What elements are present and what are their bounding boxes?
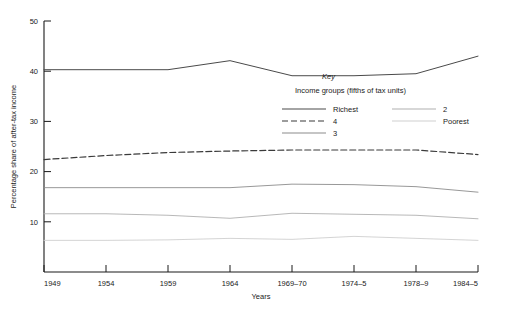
x-tick-label: 1964 bbox=[222, 279, 239, 288]
legend-label-3: 3 bbox=[333, 129, 337, 138]
legend-subtitle: Income groups (fifths of tax units) bbox=[295, 86, 406, 95]
series-line-poorest bbox=[44, 236, 478, 240]
y-tick-label: 10 bbox=[30, 218, 38, 227]
series-line-4 bbox=[44, 150, 478, 160]
series-line-3 bbox=[44, 184, 478, 192]
chart-canvas: 102030405019491954195919641969–701974–51… bbox=[0, 0, 528, 310]
legend-label-4: 4 bbox=[333, 117, 337, 126]
y-tick-label: 50 bbox=[30, 17, 38, 26]
series-lines bbox=[44, 56, 478, 240]
y-tick-label: 30 bbox=[30, 117, 38, 126]
x-tick-label: 1954 bbox=[98, 279, 115, 288]
chart-legend: KeyIncome groups (fifths of tax units)Ri… bbox=[282, 72, 470, 138]
legend-label-2: 2 bbox=[443, 105, 447, 114]
x-tick-label: 1969–70 bbox=[277, 279, 306, 288]
legend-title: Key bbox=[322, 72, 336, 81]
y-tick-label: 20 bbox=[30, 167, 38, 176]
legend-label-poorest: Poorest bbox=[443, 117, 470, 126]
x-tick-label: 1959 bbox=[160, 279, 177, 288]
x-tick-label: 1984–5 bbox=[453, 279, 478, 288]
series-line-richest bbox=[44, 56, 478, 76]
series-line-2 bbox=[44, 213, 478, 219]
x-axis-title: Years bbox=[252, 292, 271, 301]
x-tick-label: 1949 bbox=[44, 279, 61, 288]
line-chart: 102030405019491954195919641969–701974–51… bbox=[0, 0, 528, 310]
axes bbox=[44, 21, 478, 272]
x-tick-label: 1978–9 bbox=[403, 279, 428, 288]
axis-tick-labels: 102030405019491954195919641969–701974–51… bbox=[9, 17, 478, 301]
legend-label-richest: Richest bbox=[333, 105, 359, 114]
x-tick-label: 1974–5 bbox=[341, 279, 366, 288]
y-tick-label: 40 bbox=[30, 67, 38, 76]
y-axis-title: Percentage share of after-tax income bbox=[9, 85, 18, 208]
